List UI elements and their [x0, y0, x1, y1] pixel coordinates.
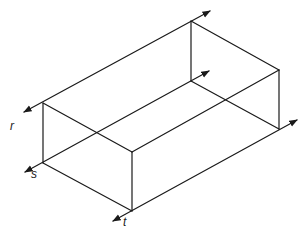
edge-back-top-to-right-top: [191, 21, 279, 70]
axis-line-s: [25, 71, 209, 172]
edge-left-bottom-to-front-bottom: [43, 163, 132, 211]
box-diagram: r s t: [0, 0, 303, 236]
label-t: t: [123, 215, 127, 229]
edge-back-inner-to-right-bottom: [191, 81, 279, 129]
edge-front-top-to-right-top: [132, 70, 279, 152]
axis-line-top: [24, 11, 210, 112]
edge-left-top-to-front-top: [43, 103, 132, 152]
label-s: s: [31, 167, 37, 181]
label-r: r: [10, 119, 15, 133]
axis-line-t: [113, 120, 297, 221]
